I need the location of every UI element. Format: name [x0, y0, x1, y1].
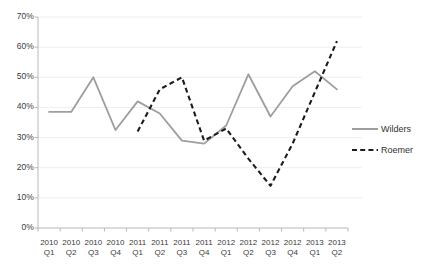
y-axis-tick-label: 20% — [0, 163, 34, 172]
legend-label-wilders: Wilders — [381, 124, 411, 134]
series-line-roemer — [138, 41, 337, 186]
chart-legend: Wilders Roemer — [352, 118, 424, 160]
y-axis-ticks — [35, 17, 39, 228]
legend-swatch-solid-icon — [352, 124, 378, 134]
y-axis-tick-label: 40% — [0, 102, 34, 111]
y-axis-tick-label: 50% — [0, 72, 34, 81]
y-axis-tick-label: 30% — [0, 133, 34, 142]
legend-label-roemer: Roemer — [381, 145, 413, 155]
x-axis-ticks — [38, 228, 348, 232]
legend-item-wilders: Wilders — [352, 118, 424, 139]
gridlines — [38, 17, 362, 198]
y-axis-tick-label: 60% — [0, 42, 34, 51]
x-axis-tick-year: 2013 — [324, 238, 350, 248]
y-axis-tick-label: 10% — [0, 193, 34, 202]
line-chart: 0%10%20%30%40%50%60%70% 2010Q12010Q22010… — [0, 0, 426, 265]
legend-item-roemer: Roemer — [352, 139, 424, 160]
y-axis-tick-label: 0% — [0, 223, 34, 232]
y-axis-tick-label: 70% — [0, 12, 34, 21]
x-axis-tick-quarter: Q2 — [324, 248, 350, 258]
legend-swatch-dashed-icon — [352, 145, 378, 155]
x-axis-labels: 2010Q12010Q22010Q32010Q42011Q12011Q22011… — [38, 232, 348, 265]
x-axis-tick-label: 2013Q2 — [324, 238, 350, 258]
y-axis-labels: 0%10%20%30%40%50%60%70% — [0, 0, 34, 265]
